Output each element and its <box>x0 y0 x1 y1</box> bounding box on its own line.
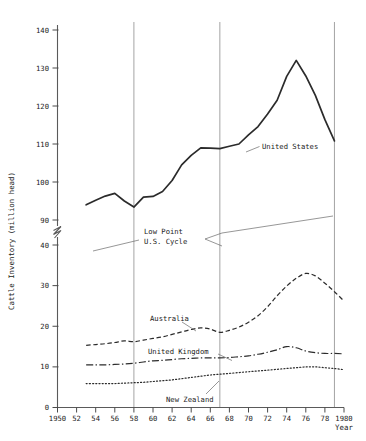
series-label-australia: Australia <box>150 314 189 323</box>
x-tick-label-1950: 1950 <box>49 414 66 423</box>
x-tick-label-76: 76 <box>301 414 310 423</box>
series-label-united-kingdom: United Kingdom <box>148 347 209 356</box>
x-tick-label-1980: 1980 <box>335 414 352 423</box>
x-tick-label-68: 68 <box>225 414 234 423</box>
x-tick-label-64: 64 <box>187 414 196 423</box>
x-tick-label-54: 54 <box>91 414 100 423</box>
x-tick-label-66: 66 <box>206 414 215 423</box>
y-tick-label-10: 10 <box>40 362 49 371</box>
cattle-inventory-line-chart: 90100110120130140 010203040 195052545658… <box>0 0 366 441</box>
series-label-new-zealand: New Zealand <box>166 395 214 404</box>
x-tick-label-74: 74 <box>282 414 291 423</box>
annotation-low-point-line2: U.S. Cycle <box>144 237 187 246</box>
x-tick-label-58: 58 <box>130 414 139 423</box>
x-tick-label-70: 70 <box>244 414 253 423</box>
x-tick-label-60: 60 <box>149 414 158 423</box>
chart-canvas: 90100110120130140 010203040 195052545658… <box>0 0 366 441</box>
y-tick-label-100: 100 <box>36 178 49 187</box>
y-tick-label-90: 90 <box>40 216 49 225</box>
series-label-united-states: United States <box>262 142 318 151</box>
y-tick-label-110: 110 <box>36 140 49 149</box>
y-tick-label-30: 30 <box>40 281 49 290</box>
annotation-low-point-line1: Low Point <box>144 227 183 236</box>
y-tick-label-0: 0 <box>45 403 49 412</box>
x-tick-label-52: 52 <box>72 414 81 423</box>
x-axis-title: Year <box>335 423 353 432</box>
y-tick-label-140: 140 <box>36 26 49 35</box>
y-tick-label-130: 130 <box>36 64 49 73</box>
y-tick-label-120: 120 <box>36 102 49 111</box>
x-tick-label-72: 72 <box>263 414 272 423</box>
y-tick-label-40: 40 <box>40 241 49 250</box>
y-axis-title: Cattle Inventory (million head) <box>7 172 16 310</box>
x-tick-label-62: 62 <box>168 414 177 423</box>
x-tick-label-56: 56 <box>110 414 119 423</box>
y-tick-label-20: 20 <box>40 322 49 331</box>
x-tick-label-78: 78 <box>321 414 330 423</box>
